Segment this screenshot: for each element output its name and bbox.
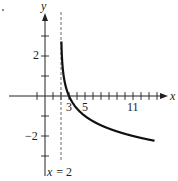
- x-tick-label-11: 11: [127, 100, 139, 114]
- asymptote-label: x= 2: [46, 165, 72, 179]
- x-tick-label-5: 5: [82, 100, 88, 114]
- x-axis-label: x: [169, 89, 176, 103]
- y-axis: y 2 −2: [25, 0, 49, 176]
- x-axis-arrow-icon: [160, 93, 168, 99]
- y-tick-label-neg2: −2: [25, 129, 38, 143]
- y-axis-arrow-icon: [42, 13, 48, 21]
- graph: x 3 5 11 y 2 −2 x= 2: [0, 0, 178, 181]
- curve: [61, 41, 154, 140]
- x-axis: x 3 5 11: [9, 89, 176, 114]
- y-axis-label: y: [40, 0, 47, 13]
- y-tick-label-2: 2: [33, 48, 39, 62]
- stray-dot: [2, 9, 4, 11]
